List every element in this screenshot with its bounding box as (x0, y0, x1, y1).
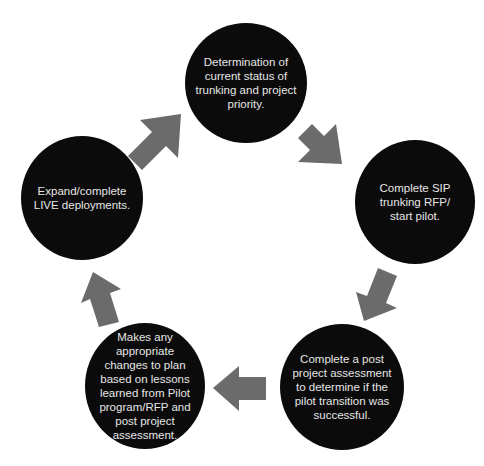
node-label: Complete SIP trunking RFP/ start pilot. (380, 181, 451, 223)
node-label: Makes any appropriate changes to plan ba… (99, 330, 190, 442)
node-label: Complete a post project assessment to de… (292, 352, 391, 422)
arrow-down-right-icon (298, 124, 342, 164)
cycle-node-step-2: Complete SIP trunking RFP/ start pilot. (355, 140, 475, 264)
cycle-node-step-4: Makes any appropriate changes to plan ba… (85, 323, 205, 449)
arrow-down-left-icon (356, 268, 397, 321)
cycle-node-step-3: Complete a post project assessment to de… (280, 324, 404, 450)
cycle-diagram: Determination of current status of trunk… (0, 0, 484, 466)
arrow-up-icon (81, 272, 121, 327)
arrow-left-icon (213, 366, 266, 411)
cycle-node-step-1: Determination of current status of trunk… (185, 23, 307, 143)
node-label: Determination of current status of trunk… (195, 55, 296, 111)
cycle-node-step-5: Expand/complete LIVE deployments. (21, 136, 143, 260)
arrow-up-right-icon (128, 114, 181, 170)
node-label: Expand/complete LIVE deployments. (34, 184, 131, 212)
